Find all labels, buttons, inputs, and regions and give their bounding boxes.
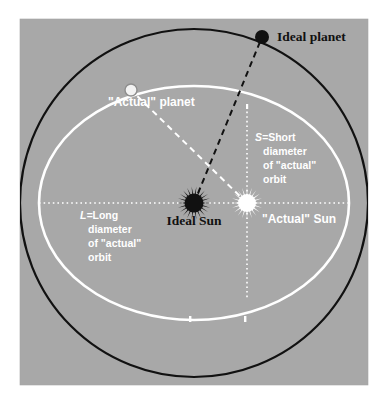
short-diameter-line4: orbit [263, 173, 287, 185]
short-diameter-line1: S=Short [255, 131, 296, 143]
ellipse-tick-right [244, 316, 246, 322]
short-diameter-symbol: S= [255, 131, 268, 143]
long-diameter-line1: L=Long [80, 209, 118, 221]
ideal-planet-marker [255, 30, 269, 44]
long-diameter-word: Long [93, 209, 119, 221]
ellipse-tick-top [246, 104, 248, 109]
long-diameter-symbol: L= [80, 209, 93, 221]
actual-sun-label: "Actual" Sun [262, 212, 336, 226]
short-diameter-word: Short [268, 131, 296, 143]
orbit-diagram-figure: Ideal planet "Actual" planet Ideal Sun "… [0, 0, 386, 399]
ideal-planet-label: Ideal planet [277, 29, 346, 44]
short-diameter-line2: diameter [263, 145, 307, 157]
diagram-canvas: Ideal planet "Actual" planet Ideal Sun "… [0, 0, 386, 399]
short-diameter-line3: of "actual" [263, 159, 316, 171]
long-diameter-line2: diameter [88, 223, 132, 235]
ellipse-tick-left [189, 316, 191, 322]
actual-planet-label: "Actual" planet [108, 95, 195, 109]
ideal-sun-label: Ideal Sun [166, 213, 222, 228]
long-diameter-line3: of "actual" [88, 237, 141, 249]
long-diameter-line4: orbit [88, 251, 112, 263]
